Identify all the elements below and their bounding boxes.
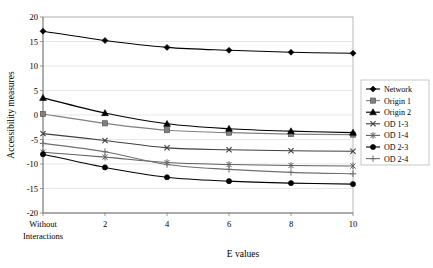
data-point-marker xyxy=(164,175,169,180)
data-point-marker xyxy=(40,111,45,116)
y-axis-tick-label: -5 xyxy=(31,135,38,145)
legend-item-label: Origin 2 xyxy=(384,108,411,117)
y-axis-tick-label: -15 xyxy=(27,184,38,194)
y-axis-tick-label: 10 xyxy=(30,61,39,71)
x-axis-title: E values xyxy=(227,249,260,259)
data-point-marker xyxy=(164,128,169,133)
x-axis-tick-label: 2 xyxy=(103,219,107,229)
data-point-marker xyxy=(40,152,45,157)
legend-item-label: OD 2-4 xyxy=(384,155,408,164)
legend-item-label: OD 1-4 xyxy=(384,131,408,140)
legend-item-label: Origin 1 xyxy=(384,97,411,106)
data-point-marker xyxy=(350,181,355,186)
y-axis-tick-label: 5 xyxy=(34,86,38,96)
x-axis-tick-label: 8 xyxy=(289,219,293,229)
x-axis-tick-labels: WithoutInteractions246810 xyxy=(23,213,357,241)
x-axis-tick-label: 10 xyxy=(349,219,358,229)
legend-marker xyxy=(370,98,375,103)
y-axis-tick-label: -10 xyxy=(27,159,38,169)
legend-item-label: OD 1-3 xyxy=(384,120,408,129)
data-point-marker xyxy=(102,165,107,170)
legend-item-label: OD 2-3 xyxy=(384,143,408,152)
legend-marker xyxy=(370,144,375,149)
y-axis-tick-label: 0 xyxy=(34,110,38,120)
chart-figure: 20151050-5-10-15-20 WithoutInteractions2… xyxy=(0,0,433,268)
x-axis-tick-label: 4 xyxy=(165,219,170,229)
x-axis-tick-label-line2: Interactions xyxy=(23,231,63,241)
y-axis-title: Accessibility measures xyxy=(6,71,16,159)
x-axis-tick-label: Without xyxy=(29,219,57,229)
y-axis-tick-label: -20 xyxy=(27,208,38,218)
legend-item-label: Network xyxy=(384,85,412,94)
accessibility-measures-line-chart: 20151050-5-10-15-20 WithoutInteractions2… xyxy=(0,0,433,268)
data-point-marker xyxy=(226,179,231,184)
y-axis-tick-label: 20 xyxy=(30,12,39,22)
x-axis-tick-label: 6 xyxy=(227,219,231,229)
y-axis-tick-label: 15 xyxy=(30,37,39,47)
data-point-marker xyxy=(102,121,107,126)
data-point-marker xyxy=(288,181,293,186)
